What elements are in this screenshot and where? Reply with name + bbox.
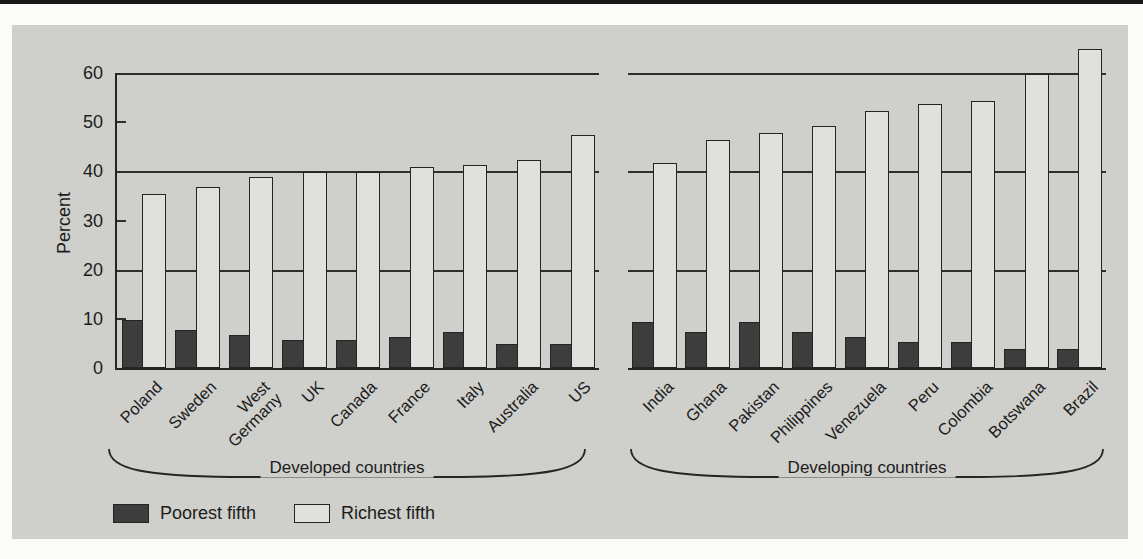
bar-pair (282, 172, 327, 368)
x-axis-label: West Germany (213, 378, 285, 450)
x-axis-label: Australia (483, 378, 540, 435)
scanned-page: Percent 0102030405060 PolandSwedenWest G… (0, 0, 1143, 559)
bar-pair (739, 133, 784, 368)
richest-fifth-bar-peru (918, 104, 942, 369)
richest-fifth-swatch (294, 504, 330, 523)
bar-pair (951, 101, 996, 368)
y-tick-label-20: 20 (69, 259, 103, 280)
richest-fifth-bar-colombia (971, 101, 995, 368)
poorest-fifth-label: Poorest fifth (160, 503, 256, 524)
country-cell: Pakistan (734, 73, 787, 368)
bar-pair (632, 163, 677, 369)
poorest-fifth-bar-italy (443, 332, 465, 368)
developed-countries-label: Developed countries (261, 458, 434, 478)
country-cell: Italy (438, 73, 492, 368)
poorest-fifth-bar-poland (122, 320, 144, 368)
bar-pair (175, 187, 220, 368)
x-axis-label: UK (298, 378, 326, 406)
country-cell: Colombia (947, 73, 1000, 368)
developed-countries-brace: Developed countries (106, 445, 588, 483)
poorest-fifth-bar-australia (496, 344, 518, 368)
bar-pair (122, 194, 167, 368)
bar-pair (550, 135, 595, 368)
bar-pair (443, 165, 488, 368)
bar-pair (229, 177, 274, 368)
x-axis-label: India (639, 378, 676, 415)
poorest-fifth-bar-venezuela (845, 337, 867, 368)
country-cell: Botswana (1000, 73, 1053, 368)
x-axis-label: Sweden (165, 378, 219, 432)
country-cell: Australia (492, 73, 546, 368)
richest-fifth-bar-ghana (706, 140, 730, 368)
developing-countries-label: Developing countries (779, 458, 956, 478)
country-cell: Canada (331, 73, 385, 368)
country-cell: West Germany (224, 73, 278, 368)
country-cell: Brazil (1053, 73, 1106, 368)
figure-panel: Percent 0102030405060 PolandSwedenWest G… (12, 25, 1128, 539)
richest-fifth-bar-italy (463, 165, 487, 368)
developing-countries-brace: Developing countries (628, 445, 1106, 483)
poorest-fifth-bar-colombia (951, 342, 973, 368)
bar-pair (496, 160, 541, 368)
poorest-fifth-bar-sweden (175, 330, 197, 368)
poorest-fifth-bar-uk (282, 340, 304, 369)
country-cell: UK (278, 73, 332, 368)
developed-countries-plot: PolandSwedenWest GermanyUKCanadaFranceIt… (115, 73, 599, 370)
country-cell: India (628, 73, 681, 368)
country-cell: Ghana (681, 73, 734, 368)
bar-pair (389, 167, 434, 368)
richest-fifth-bar-sweden (196, 187, 220, 368)
country-cell: Peru (894, 73, 947, 368)
richest-fifth-bar-australia (517, 160, 541, 368)
y-tick-label-10: 10 (69, 308, 103, 329)
x-axis-label: Peru (905, 378, 942, 415)
legend-item-richest: Richest fifth (294, 503, 435, 524)
poorest-fifth-bar-peru (898, 342, 920, 368)
richest-fifth-bar-india (653, 163, 677, 369)
richest-fifth-bar-venezuela (865, 111, 889, 368)
poorest-fifth-bar-us (550, 344, 572, 368)
x-axis-label: US (566, 378, 594, 406)
country-cell: Sweden (171, 73, 225, 368)
poorest-fifth-bar-botswana (1004, 349, 1026, 368)
poorest-fifth-bar-india (632, 322, 654, 368)
y-tick-label-0: 0 (69, 358, 103, 379)
y-tick-label-60: 60 (69, 63, 103, 84)
poorest-fifth-bar-brazil (1057, 349, 1079, 368)
x-axis-label: Brazil (1060, 378, 1101, 419)
poorest-fifth-swatch (113, 504, 149, 523)
country-cell: France (385, 73, 439, 368)
country-cell: Poland (117, 73, 171, 368)
poorest-fifth-bar-canada (336, 340, 358, 369)
legend-item-poorest: Poorest fifth (113, 503, 256, 524)
y-tick-label-40: 40 (69, 161, 103, 182)
richest-fifth-bar-canada (356, 172, 380, 368)
x-axis-label: Italy (454, 378, 487, 411)
bar-pair (336, 172, 381, 368)
legend: Poorest fifth Richest fifth (113, 503, 435, 524)
developing-countries-plot: IndiaGhanaPakistanPhilippinesVenezuelaPe… (628, 73, 1106, 370)
x-axis-label: Ghana (683, 378, 730, 425)
poorest-fifth-bar-philippines (792, 332, 814, 368)
richest-fifth-bar-poland (142, 194, 166, 368)
page-top-rule (0, 0, 1143, 4)
poorest-fifth-bar-west-germany (229, 335, 251, 368)
bar-pair (685, 140, 730, 368)
richest-fifth-bar-west-germany (249, 177, 273, 368)
richest-fifth-bar-botswana (1025, 74, 1049, 368)
x-axis-label: France (385, 378, 433, 426)
bar-pair (898, 104, 943, 369)
richest-fifth-bar-uk (303, 172, 327, 368)
richest-fifth-bar-brazil (1078, 49, 1102, 368)
poorest-fifth-bar-pakistan (739, 322, 761, 368)
richest-fifth-bar-pakistan (759, 133, 783, 368)
richest-fifth-bar-france (410, 167, 434, 368)
richest-fifth-bar-us (571, 135, 595, 368)
poorest-fifth-bar-france (389, 337, 411, 368)
country-cell: Venezuela (840, 73, 893, 368)
bar-pair (1057, 49, 1102, 368)
y-tick-label-50: 50 (69, 112, 103, 133)
richest-fifth-label: Richest fifth (341, 503, 435, 524)
bar-pair (792, 126, 837, 368)
y-tick-label-30: 30 (69, 210, 103, 231)
